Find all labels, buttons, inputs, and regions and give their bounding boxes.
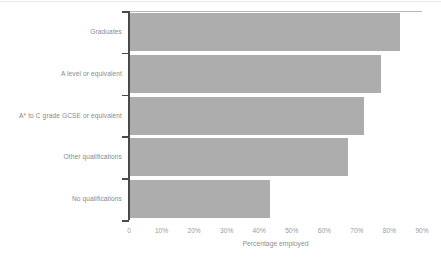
value-tick-label: 20% bbox=[188, 227, 201, 234]
category-tick bbox=[122, 136, 129, 138]
value-tick-label: 50% bbox=[285, 227, 298, 234]
bar bbox=[130, 97, 364, 135]
plot-area: GraduatesA level or equivalentA* to C gr… bbox=[0, 0, 441, 263]
bar-chart: GraduatesA level or equivalentA* to C gr… bbox=[0, 0, 441, 263]
category-tick bbox=[122, 95, 129, 97]
value-tick-label: 40% bbox=[253, 227, 266, 234]
value-tick-label: 0 bbox=[127, 227, 131, 234]
category-tick bbox=[122, 220, 129, 222]
bar bbox=[130, 138, 348, 176]
category-label: Other qualifications bbox=[2, 153, 122, 160]
category-tick bbox=[122, 11, 129, 13]
value-tick-label: 30% bbox=[220, 227, 233, 234]
value-axis-tick-labels: 010%20%30%40%50%60%70%80%90% bbox=[0, 227, 441, 239]
bar bbox=[130, 180, 270, 218]
value-tick-label: 10% bbox=[155, 227, 168, 234]
bar-series bbox=[130, 0, 430, 263]
category-axis-labels: GraduatesA level or equivalentA* to C gr… bbox=[0, 0, 122, 263]
value-tick-label: 70% bbox=[350, 227, 363, 234]
bar bbox=[130, 13, 400, 51]
category-label: A level or equivalent bbox=[2, 70, 122, 77]
category-tick bbox=[122, 178, 129, 180]
value-tick-label: 80% bbox=[383, 227, 396, 234]
value-tick-label: 90% bbox=[415, 227, 428, 234]
value-tick-label: 60% bbox=[318, 227, 331, 234]
category-tick bbox=[122, 53, 129, 55]
category-label: No qualifications bbox=[2, 195, 122, 202]
category-label: A* to C grade GCSE or equivalent bbox=[2, 112, 122, 119]
x-axis-title: Percentage employed bbox=[129, 240, 422, 247]
category-label: Graduates bbox=[2, 28, 122, 35]
bar bbox=[130, 55, 381, 93]
